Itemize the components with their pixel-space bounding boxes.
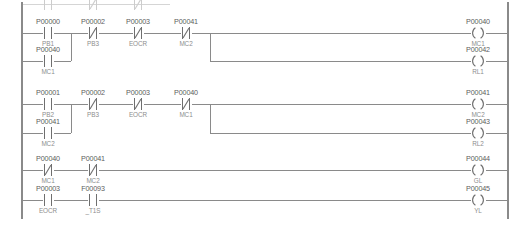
rung-1-output-0[interactable]: P00040MC1 [466,17,508,48]
rung-1-output-1[interactable]: P00042RL1 [466,45,508,76]
rung-2-main-contact-3[interactable]: P00040MC1 [144,88,199,119]
rung-1-main-contact-3-symbol: MC2 [179,40,193,47]
rung-1-branch-contact-0[interactable]: P00040MC1 [22,45,60,76]
rung-3-main-contact-1[interactable]: P00041MC2 [54,154,106,185]
rung-4-output-0-right-arc [481,195,484,205]
rung-1-main-contact-2-symbol: EOCR [129,40,148,47]
rung-3: P00040MC1P00041MC2P00044GL [22,154,508,185]
rung-2-output-0[interactable]: P00041MC2 [466,88,508,119]
rung-3-output-0-left-arc [473,165,476,175]
rung-2-main-contact-1[interactable]: P00002PB3 [54,88,106,119]
rung-3-main-contact-1-nc-slash [90,165,96,175]
rung-1: P00000PB1P00002PB3P00003EOCRP00041MC2P00… [22,17,508,76]
rung-1-output-0-address: P00040 [466,17,490,26]
rung-2-main-contact-0-address: P00001 [36,88,60,97]
rung-1-output-1-symbol: RL1 [472,68,484,75]
rung-3-main-contact-0[interactable]: P00040MC1 [22,154,60,185]
rung-2-output-0-left-arc [473,99,476,109]
rung-4-output-0-address: P00045 [466,184,490,193]
rung-1-main-contact-1-symbol: PB3 [87,40,99,47]
rung-2-branch-contact-0-address: P00041 [36,117,60,126]
rung-4-output-0[interactable]: P00045YL [466,184,508,215]
rung-2-branch-contact-0-symbol: MC2 [41,140,55,147]
rung-3-main-contact-0-address: P00040 [36,154,60,163]
rung-1-main-contact-2[interactable]: P00003EOCR [99,17,151,48]
rung-1-output-0-left-arc [473,28,476,38]
rung-2-output-0-address: P00041 [466,88,490,97]
rung-1-main-contact-1[interactable]: P00002PB3 [54,17,106,48]
ladder-logic-svg: P00000PB1P00002PB3P00003EOCRP00041MC2P00… [0,0,519,225]
rung-2-output-1-right-arc [481,128,484,138]
rung-1-main-contact-2-address: P00003 [126,17,150,26]
rung-1-output-1-right-arc [481,56,484,66]
rung-1-main-contact-1-address: P00002 [81,17,105,26]
rung-4-main-contact-0-symbol: EOCR [39,207,58,214]
rung-3-main-contact-0-nc-slash [45,165,51,175]
rung-1-main-contact-1-nc-slash [90,28,96,38]
rung-3-output-0[interactable]: P00044GL [466,154,508,185]
rung-2-main-contact-2-address: P00003 [126,88,150,97]
partial-top-row [22,0,170,10]
rung-2-output-1-left-arc [473,128,476,138]
rung-2-main-contact-2[interactable]: P00003EOCR [99,88,151,119]
rung-2-main-contact-0[interactable]: P00001PB2 [22,88,60,119]
rung-2-main-contact-2-symbol: EOCR [129,111,148,118]
rung-1-branch-contact-0-symbol: MC1 [41,68,55,75]
rung-2: P00001PB2P00002PB3P00003EOCRP00040MC1P00… [22,88,508,148]
rung-1-output-1-left-arc [473,56,476,66]
rung-4-main-contact-1-address: F00093 [81,184,105,193]
rung-1-output-1-address: P00042 [466,45,490,54]
rung-4-main-contact-1-symbol: _T1S [85,207,101,215]
rung-2-main-contact-1-nc-slash [90,99,96,109]
rung-2-main-contact-3-address: P00040 [174,88,198,97]
rung-4-output-0-symbol: YL [474,207,482,214]
rung-1-main-contact-3[interactable]: P00041MC2 [144,17,199,48]
rung-1-main-contact-0-address: P00000 [36,17,60,26]
rung-4: P00003EOCRF00093_T1SP00045YL [22,184,508,216]
rung-3-output-0-right-arc [481,165,484,175]
rung-1-output-0-right-arc [481,28,484,38]
rung-2-branch-contact-0[interactable]: P00041MC2 [22,117,60,148]
rung-2-output-1[interactable]: P00043RL2 [466,117,508,148]
ladder-diagram-canvas: P00000PB1P00002PB3P00003EOCRP00041MC2P00… [0,0,519,225]
rung-2-main-contact-1-address: P00002 [81,88,105,97]
rung-2-output-0-right-arc [481,99,484,109]
rung-1-branch-contact-0-address: P00040 [36,45,60,54]
rung-2-main-contact-3-symbol: MC1 [179,111,193,118]
rung-2-main-contact-1-symbol: PB3 [87,111,99,118]
rung-4-main-contact-0-address: P00003 [36,184,60,193]
rung-1-main-contact-0[interactable]: P00000PB1 [22,17,60,48]
rung-1-main-contact-3-nc-slash [183,28,189,38]
rung-4-output-0-left-arc [473,195,476,205]
rung-2-output-1-address: P00043 [466,117,490,126]
rung-3-output-0-address: P00044 [466,154,490,163]
rung-1-main-contact-3-address: P00041 [174,17,198,26]
rung-4-main-contact-1[interactable]: F00093_T1S [54,184,105,216]
rung-2-main-contact-3-nc-slash [183,99,189,109]
rung-2-output-1-symbol: RL2 [472,140,484,147]
rung-1-main-contact-2-nc-slash [135,28,141,38]
rung-4-main-contact-0[interactable]: P00003EOCR [22,184,60,215]
rung-3-main-contact-1-address: P00041 [81,154,105,163]
rung-2-main-contact-2-nc-slash [135,99,141,109]
